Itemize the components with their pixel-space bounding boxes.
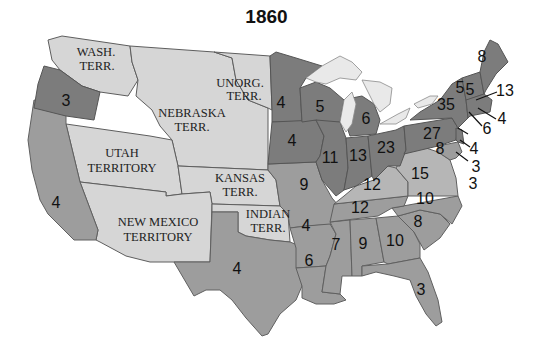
votes-maine: 8 — [478, 48, 487, 65]
votes-louisiana: 6 — [305, 252, 314, 269]
votes-maryland: 8 — [436, 140, 445, 157]
votes-tennessee: 12 — [351, 199, 369, 216]
votes-mississippi: 7 — [332, 236, 341, 253]
votes-ohio: 23 — [377, 139, 395, 156]
votes-arkansas: 4 — [302, 217, 311, 234]
svg-text:NEW MEXICO: NEW MEXICO — [118, 215, 199, 229]
votes-wisconsin: 5 — [316, 98, 325, 115]
svg-text:UNORG.: UNORG. — [216, 76, 264, 90]
label-kansas-terr: KANSAS TERR. — [215, 171, 265, 199]
votes-kentucky: 12 — [363, 176, 381, 193]
votes-virginia: 15 — [411, 165, 429, 182]
svg-text:NEBRASKA: NEBRASKA — [158, 106, 225, 120]
votes-delaware: 3 — [472, 158, 481, 175]
lake-erie — [380, 108, 410, 124]
votes-iowa: 4 — [288, 132, 297, 149]
votes-illinois: 11 — [322, 149, 339, 166]
svg-text:TERRITORY: TERRITORY — [87, 161, 156, 175]
us-map-1860: WASH. TERR. NEBRASKA TERR. UNORG. TERR. … — [0, 0, 533, 351]
label-new-mexico-territory: NEW MEXICO TERRITORY — [118, 215, 199, 244]
votes-michigan: 6 — [362, 110, 371, 127]
votes-missouri: 9 — [300, 176, 309, 193]
svg-text:TERR.: TERR. — [79, 59, 114, 73]
votes-indiana: 13 — [349, 147, 367, 164]
votes-new-jersey: 4 — [470, 140, 479, 157]
svg-text:TERR.: TERR. — [250, 221, 285, 235]
label-wash-terr: WASH. TERR. — [77, 45, 116, 73]
votes-florida: 3 — [417, 281, 426, 298]
label-indian-terr: INDIAN TERR. — [246, 207, 290, 235]
svg-text:TERR.: TERR. — [222, 185, 257, 199]
svg-text:UTAH: UTAH — [105, 146, 139, 160]
votes-oregon: 3 — [62, 92, 71, 109]
votes-vermont: 5 — [456, 79, 465, 96]
votes-north-carolina: 10 — [416, 190, 434, 207]
votes-texas: 4 — [233, 260, 242, 277]
region-florida — [362, 258, 442, 326]
votes-new-york: 35 — [437, 96, 455, 113]
votes-new-hampshire: 5 — [466, 81, 475, 98]
svg-text:TERR.: TERR. — [226, 89, 261, 103]
svg-text:WASH.: WASH. — [77, 45, 116, 59]
votes-maryland-east: 3 — [469, 175, 478, 192]
votes-alabama: 9 — [359, 235, 368, 252]
svg-text:TERRITORY: TERRITORY — [123, 230, 192, 244]
votes-connecticut: 6 — [483, 120, 492, 137]
votes-georgia: 10 — [386, 232, 404, 249]
votes-california: 4 — [52, 194, 61, 211]
svg-text:INDIAN: INDIAN — [246, 207, 290, 221]
votes-south-carolina: 8 — [414, 213, 423, 230]
votes-massachusetts: 13 — [496, 82, 514, 99]
votes-rhode-island: 4 — [498, 110, 507, 127]
votes-minnesota: 4 — [277, 94, 286, 111]
svg-text:TERR.: TERR. — [174, 120, 209, 134]
svg-text:KANSAS: KANSAS — [215, 171, 265, 185]
